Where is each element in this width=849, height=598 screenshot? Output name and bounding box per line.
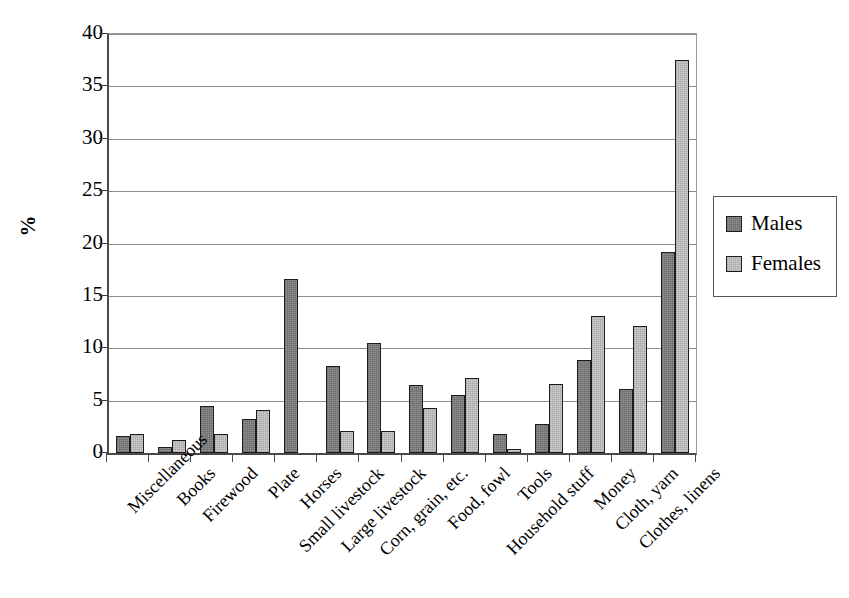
bar-males xyxy=(661,252,675,453)
legend-swatch-females-icon xyxy=(726,256,742,272)
y-axis-title: % xyxy=(8,206,48,246)
bar-group xyxy=(444,34,486,453)
bar-chart: % 0510152025303540 MiscellaneousBooksFir… xyxy=(0,0,849,598)
bar-males xyxy=(367,343,381,453)
y-tick-mark xyxy=(99,138,107,139)
bar-females xyxy=(214,434,228,453)
bar-group xyxy=(486,34,528,453)
y-tick-mark xyxy=(99,33,107,34)
bar-males xyxy=(493,434,507,453)
bar-females xyxy=(633,326,647,453)
y-tick-label: 40 xyxy=(55,22,103,43)
y-tick-mark xyxy=(99,347,107,348)
bar-group xyxy=(319,34,361,453)
y-tick-mark xyxy=(99,295,107,296)
bar-group xyxy=(151,34,193,453)
bar-group xyxy=(109,34,151,453)
bar-females xyxy=(591,316,605,453)
bar-females xyxy=(465,378,479,453)
y-tick-label: 10 xyxy=(55,336,103,357)
bar-group xyxy=(570,34,612,453)
legend-label-females: Females xyxy=(751,253,821,274)
bar-males xyxy=(242,419,256,453)
legend-swatch-males-icon xyxy=(726,216,742,232)
legend-label-males: Males xyxy=(751,213,802,234)
y-tick-label: 5 xyxy=(55,389,103,410)
y-tick-label: 30 xyxy=(55,127,103,148)
bar-females xyxy=(549,384,563,453)
y-tick-label: 0 xyxy=(55,441,103,462)
bar-group xyxy=(361,34,403,453)
bar-females xyxy=(256,410,270,453)
bar-group xyxy=(277,34,319,453)
bar-males xyxy=(451,395,465,453)
y-tick-label: 20 xyxy=(55,232,103,253)
bar-males xyxy=(116,436,130,453)
y-tick-mark xyxy=(99,243,107,244)
bar-males xyxy=(577,360,591,453)
y-tick-label: 35 xyxy=(55,74,103,95)
y-tick-label: 15 xyxy=(55,284,103,305)
bar-females xyxy=(423,408,437,453)
bar-females xyxy=(130,434,144,453)
legend: Males Females xyxy=(713,196,837,297)
y-tick-mark xyxy=(99,190,107,191)
y-tick-mark xyxy=(99,400,107,401)
plot-area xyxy=(107,33,697,455)
bar-males xyxy=(619,389,633,453)
bar-group xyxy=(235,34,277,453)
bar-males xyxy=(284,279,298,453)
y-axis: 0510152025303540 xyxy=(45,0,103,598)
bar-group xyxy=(654,34,696,453)
bar-group xyxy=(402,34,444,453)
bar-females xyxy=(381,431,395,453)
bar-group xyxy=(528,34,570,453)
bar-males xyxy=(409,385,423,453)
bar-groups xyxy=(109,34,696,453)
bar-group xyxy=(612,34,654,453)
x-axis-labels: MiscellaneousBooksFirewoodPlateHorsesSma… xyxy=(107,455,696,598)
legend-item-males: Males xyxy=(726,213,802,234)
bar-males xyxy=(326,366,340,453)
bar-group xyxy=(193,34,235,453)
bar-males xyxy=(535,424,549,453)
bar-females xyxy=(340,431,354,453)
legend-item-females: Females xyxy=(726,253,821,274)
bar-females xyxy=(675,60,689,453)
y-tick-mark xyxy=(99,85,107,86)
y-tick-label: 25 xyxy=(55,179,103,200)
